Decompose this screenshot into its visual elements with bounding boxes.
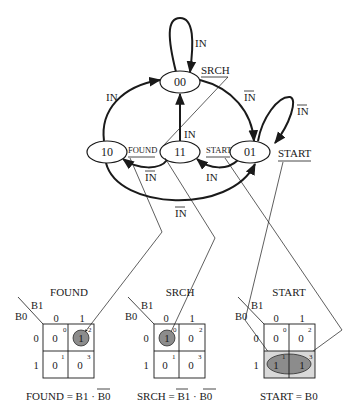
connector-srch (165, 158, 215, 334)
transition-01-01 (258, 97, 293, 143)
kmap-row-var: B0 (15, 311, 27, 322)
output-label-start-large: START (278, 147, 312, 159)
transition-00-00 (170, 18, 193, 72)
kmap-col-header: 0 (53, 313, 58, 324)
edge-label-01-01: IN (297, 105, 309, 117)
kmap-cell-index: 0 (173, 326, 177, 334)
kmap-col-header: 0 (273, 313, 278, 324)
kmap-equation: FOUND = B1 · B0 (26, 390, 111, 402)
kmap-cell-index: 3 (198, 353, 202, 361)
transition-00-01 (200, 80, 254, 141)
kmap-equation: START = B0 (260, 390, 318, 402)
kmap-cell-index: 1 (61, 353, 65, 361)
output-label-srch: SRCH (201, 64, 230, 76)
kmap-row-header: 1 (253, 360, 258, 371)
output-label-found: FOUND (128, 145, 157, 155)
kmap-cell-value: 1 (299, 359, 305, 371)
edge-label-01-11: IN (206, 171, 218, 183)
kmap-row-header: 0 (253, 333, 258, 344)
kmap-col-var: B1 (31, 300, 43, 311)
kmap-col-var: B1 (251, 300, 263, 311)
edge-label-00-01: IN (244, 91, 256, 103)
kmap-title: SRCH (166, 286, 195, 298)
kmap-cell-value: 1 (164, 332, 170, 344)
kmap-srch: SRCH B1 B0 0 1 0 1 1 0 0 2 0 1 0 3 SRCH … (125, 286, 216, 402)
kmap-cell-value: 0 (188, 332, 194, 344)
edge-label-10-00: IN (106, 91, 118, 103)
kmap-cell-index: 1 (172, 353, 176, 361)
kmap-title: START (272, 286, 306, 298)
kmap-cell-value: 1 (273, 359, 279, 371)
kmap-row-header: 1 (143, 360, 148, 371)
output-label-start-small: START (206, 145, 233, 155)
transition-10-00 (104, 80, 160, 141)
transition-01-11 (197, 159, 238, 167)
kmap-col-header: 1 (299, 313, 304, 324)
state-00-label: 00 (174, 75, 186, 89)
kmap-col-header: 1 (189, 313, 194, 324)
kmap-cell-index: 1 (282, 353, 286, 361)
edge-label-10-01: IN (175, 207, 187, 219)
kmap-cell-value: 0 (273, 332, 279, 344)
kmap-cell-index: 0 (63, 326, 67, 334)
state-diagram-with-kmaps: 00 10 11 01 IN IN IN IN IN IN IN IN SRCH… (0, 0, 347, 410)
kmap-col-header: 0 (163, 313, 168, 324)
state-10-label: 10 (101, 145, 113, 159)
kmap-cell-value: 0 (298, 332, 304, 344)
kmap-row-var: B0 (235, 311, 247, 322)
state-diagram (87, 18, 293, 200)
kmap-cell-index: 0 (283, 326, 287, 334)
state-01-label: 01 (244, 145, 256, 159)
kmap-row-header: 0 (143, 333, 148, 344)
kmap-cell-index: 2 (199, 326, 203, 334)
kmap-cell-value: 0 (52, 332, 58, 344)
kmap-col-var: B1 (141, 300, 153, 311)
kmap-found: FOUND B1 B0 0 1 0 1 0 0 1 2 0 1 0 3 FOUN… (15, 286, 111, 402)
kmap-cell-value: 0 (162, 359, 168, 371)
kmap-cell-index: 2 (88, 326, 92, 334)
kmap-cell-value: 0 (52, 359, 58, 371)
kmap-row-header: 1 (33, 360, 38, 371)
kmap-row-header: 0 (33, 333, 38, 344)
kmap-cell-value: 1 (78, 332, 84, 344)
kmap-title: FOUND (50, 286, 88, 298)
edge-label-00-00: IN (195, 37, 207, 49)
kmap-equation: SRCH = B1 · B0 (137, 390, 213, 402)
transition-11-10 (123, 159, 167, 167)
kmap-col-header: 1 (79, 313, 84, 324)
kmap-cell-index: 3 (87, 353, 91, 361)
kmap-row-var: B0 (125, 311, 137, 322)
edge-label-11-00: IN (184, 128, 196, 140)
kmap-cell-value: 0 (77, 359, 83, 371)
kmap-cell-index: 3 (309, 353, 313, 361)
transition-10-01 (106, 163, 255, 200)
edge-label-11-10: IN (145, 171, 157, 183)
kmap-cell-value: 0 (188, 359, 194, 371)
kmap-start: START B1 B0 0 1 0 1 0 0 0 2 1 1 1 3 STAR… (235, 286, 318, 402)
kmap-cell-index: 2 (308, 326, 312, 334)
state-11-label: 11 (174, 145, 186, 159)
